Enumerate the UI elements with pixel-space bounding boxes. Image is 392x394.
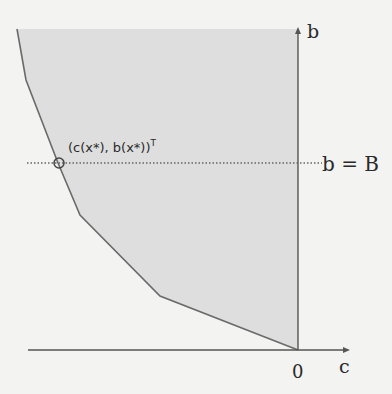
tradeoff-diagram: b c 0 b = B (c(x*), b(x*))T xyxy=(0,0,392,394)
constraint-label: b = B xyxy=(322,152,379,176)
b-axis-label: b xyxy=(307,20,319,42)
feasible-region xyxy=(17,29,298,350)
c-axis-label: c xyxy=(339,355,350,377)
origin-label: 0 xyxy=(292,361,303,382)
optimum-point-label-text: (c(x*), b(x*)) xyxy=(68,140,150,155)
optimum-point-label: (c(x*), b(x*))T xyxy=(68,138,156,155)
c-axis-arrow-icon xyxy=(343,347,350,353)
transpose-superscript: T xyxy=(149,138,156,148)
